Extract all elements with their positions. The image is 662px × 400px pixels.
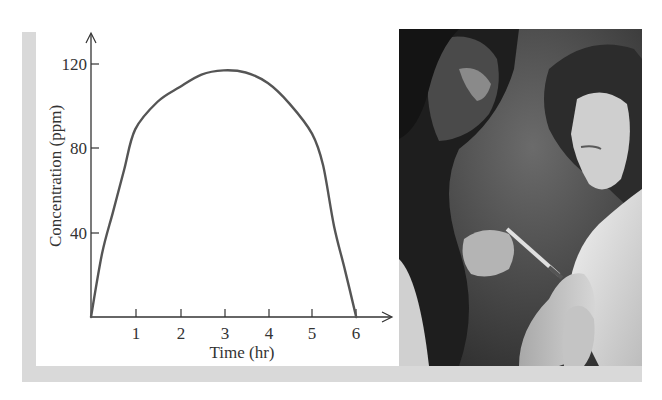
y-tick-label-120: 120 xyxy=(62,55,88,74)
x-tick-label-6: 6 xyxy=(352,324,361,343)
x-axis-title: Time (hr) xyxy=(209,343,274,362)
x-tick-label-3: 3 xyxy=(221,324,230,343)
y-tick-label-40: 40 xyxy=(70,224,87,243)
x-tick-label-4: 4 xyxy=(265,324,274,343)
concentration-chart: 40 80 120 1 2 3 4 5 6 Time (hr) Concentr… xyxy=(36,0,399,366)
chart-svg: 40 80 120 1 2 3 4 5 6 Time (hr) Concentr… xyxy=(36,0,399,366)
x-tick-label-1: 1 xyxy=(132,324,141,343)
figure-frame-bottom xyxy=(22,366,642,382)
y-axis-title: Concentration (ppm) xyxy=(46,105,65,247)
figure-frame-left xyxy=(22,32,36,382)
y-tick-label-80: 80 xyxy=(70,139,87,158)
x-tick-label-2: 2 xyxy=(177,324,186,343)
x-tick-label-5: 5 xyxy=(308,324,317,343)
photo-illustration xyxy=(399,29,642,366)
injection-photo xyxy=(399,29,642,366)
